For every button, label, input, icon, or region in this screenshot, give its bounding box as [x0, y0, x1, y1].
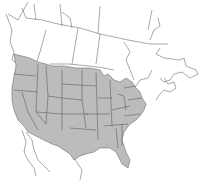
range-area	[12, 54, 146, 168]
north-america-map	[0, 0, 201, 182]
range-map	[0, 0, 201, 182]
